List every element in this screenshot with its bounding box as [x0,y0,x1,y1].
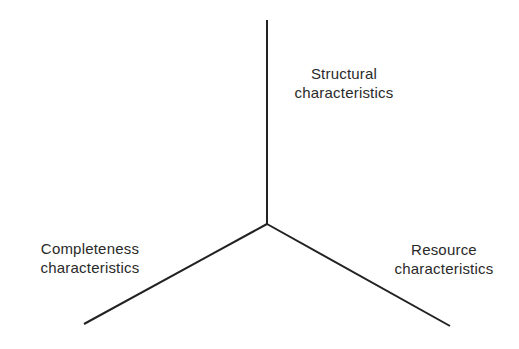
completeness-label: Completeness characteristics [29,239,151,277]
resource-label-line2: characteristics [384,259,504,278]
structural-label-line1: Structural [286,64,402,83]
completeness-label-line2: characteristics [29,258,151,277]
completeness-label-line1: Completeness [29,239,151,258]
structural-label: Structural characteristics [286,64,402,102]
resource-label: Resource characteristics [384,240,504,278]
axes-diagram [0,0,519,349]
structural-label-line2: characteristics [286,83,402,102]
resource-label-line1: Resource [384,240,504,259]
